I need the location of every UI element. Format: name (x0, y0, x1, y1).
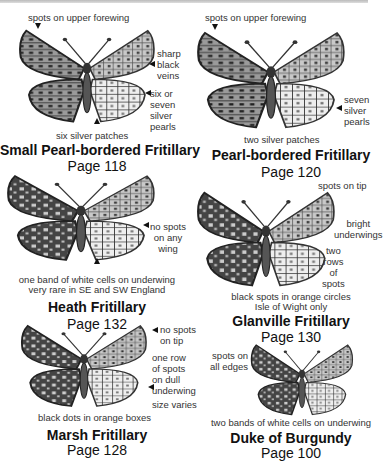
top-rule (0, 0, 368, 3)
label-spots-upper-forewing: spots on upper forewing (205, 12, 306, 23)
species-name: Glanville Fritillary (194, 313, 388, 329)
label-one-row-of-spots: one row of spots on dull underwing (152, 352, 196, 396)
pointer-arrow-icon (94, 258, 100, 264)
butterfly-illustration-glanville (196, 186, 336, 290)
species-name: Marsh Fritillary (0, 427, 194, 443)
butterfly-illustration-pearl-bordered (196, 26, 346, 132)
butterfly-illustration-heath (6, 170, 156, 264)
label-sharp-black-veins: sharp black veins (157, 48, 181, 81)
label-two-bands-white-cells: two bands of white cells on underwing (194, 417, 388, 428)
pointer-arrow-icon (336, 105, 342, 111)
label-two-rows-of-spots: two rows of spots (322, 245, 345, 289)
page-reference[interactable]: Page 100 (194, 445, 388, 461)
pointer-arrow-icon (152, 327, 158, 333)
label-no-spots-on-tip: no spots on tip (160, 324, 196, 346)
butterfly-illustration-marsh (20, 320, 148, 410)
butterfly-illustration-small-pearl-bordered (18, 24, 156, 126)
label-two-silver-patches: two silver patches (244, 134, 320, 145)
species-name: Pearl-bordered Fritillary (194, 147, 388, 163)
pointer-arrow-icon (143, 222, 149, 228)
pointer-arrow-icon (94, 118, 100, 124)
label-spots-on-all-edges: spots on all edges (210, 350, 248, 372)
pointer-arrow-icon (149, 61, 155, 67)
butterfly-illustration-duke-of-burgundy (250, 340, 354, 418)
label-six-silver-patches: six silver patches (56, 130, 128, 141)
label-no-spots-on-any-wing: no spots on any wing (150, 221, 186, 254)
label-seven-silver-pearls: seven silver pearls (344, 94, 370, 127)
label-spots-upper-forewing: spots on upper forewing (28, 12, 129, 23)
label-very-rare: very rare in SE and SW England (0, 284, 194, 295)
species-name: Heath Fritillary (0, 299, 194, 315)
species-name: Duke of Burgundy (194, 430, 388, 446)
page-reference[interactable]: Page 128 (0, 442, 194, 458)
pointer-arrow-icon (148, 384, 154, 390)
label-isle-of-wight-only: Isle of Wight only (194, 301, 388, 312)
label-six-or-seven-silver-pearls: six or seven silver pearls (150, 88, 176, 132)
page-reference[interactable]: Page 120 (194, 164, 388, 180)
label-black-dots-orange-boxes: black dots in orange boxes (38, 412, 151, 423)
label-bright-underwings: bright underwings (334, 218, 383, 240)
pointer-arrow-icon (145, 90, 151, 96)
species-name: Small Pearl-bordered Fritillary (0, 142, 194, 158)
label-size-varies: size varies (152, 399, 197, 410)
